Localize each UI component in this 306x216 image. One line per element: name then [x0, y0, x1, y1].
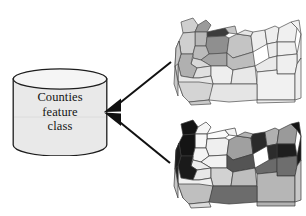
oregon-counties-choropleth-light-icon: [173, 8, 303, 108]
counties-feature-class-cylinder[interactable]: Counties feature class: [12, 68, 108, 156]
diagram-canvas: Counties feature class: [0, 0, 306, 216]
arrow-from-bottom-map: [104, 113, 170, 164]
cylinder-label-line-1: Counties: [12, 90, 108, 105]
map-top[interactable]: [173, 8, 303, 108]
cylinder-label-line-3: class: [12, 119, 108, 134]
map-bottom[interactable]: [173, 110, 303, 212]
cylinder-label-line-2: feature: [12, 105, 108, 120]
oregon-counties-choropleth-dark-icon: [173, 110, 303, 212]
cylinder-label: Counties feature class: [12, 90, 108, 134]
arrow-from-top-map: [104, 62, 171, 112]
